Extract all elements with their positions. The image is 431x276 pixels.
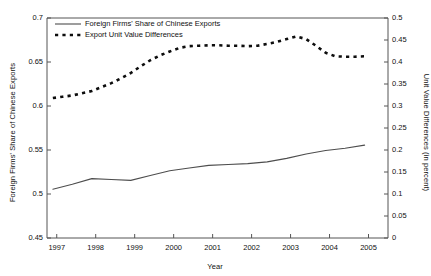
legend-label-1: Foreign Firms' Share of Chinese Exports — [85, 19, 220, 28]
x-tick-2005: 2005 — [352, 243, 386, 252]
x-tick-1997: 1997 — [40, 243, 74, 252]
legend-marks — [55, 24, 81, 35]
y-tick-right-0.3: 0.3 — [392, 101, 418, 110]
series-line-1 — [53, 145, 365, 189]
x-tick-1998: 1998 — [79, 243, 113, 252]
y-tick-right-0.4: 0.4 — [392, 57, 418, 66]
axis-ticks — [47, 18, 388, 238]
x-tick-1999: 1999 — [118, 243, 152, 252]
series-line-2 — [53, 36, 365, 98]
y-tick-right-0.25: 0.25 — [392, 123, 418, 132]
y-tick-right-0.15: 0.15 — [392, 167, 418, 176]
y-tick-right-0.1: 0.1 — [392, 189, 418, 198]
y-tick-right-0.05: 0.05 — [392, 211, 418, 220]
y-tick-left-0.65: 0.65 — [17, 57, 43, 66]
x-tick-2001: 2001 — [196, 243, 230, 252]
y-tick-left-0.45: 0.45 — [17, 233, 43, 242]
y-tick-right-0.35: 0.35 — [392, 79, 418, 88]
data-series — [53, 36, 365, 189]
y-tick-right-0.2: 0.2 — [392, 145, 418, 154]
y-tick-left-0.55: 0.55 — [17, 145, 43, 154]
y-tick-right-0: 0 — [392, 233, 418, 242]
y-tick-left-0.5: 0.5 — [17, 189, 43, 198]
x-tick-2004: 2004 — [313, 243, 347, 252]
x-tick-2003: 2003 — [274, 243, 308, 252]
y-tick-right-0.45: 0.45 — [392, 35, 418, 44]
x-tick-2000: 2000 — [157, 243, 191, 252]
legend-label-2: Export Unit Value Differences — [85, 30, 183, 39]
x-tick-2002: 2002 — [235, 243, 269, 252]
y-tick-right-0.5: 0.5 — [392, 13, 418, 22]
axes — [47, 18, 388, 238]
y-tick-left-0.6: 0.6 — [17, 101, 43, 110]
y-tick-left-0.7: 0.7 — [17, 13, 43, 22]
